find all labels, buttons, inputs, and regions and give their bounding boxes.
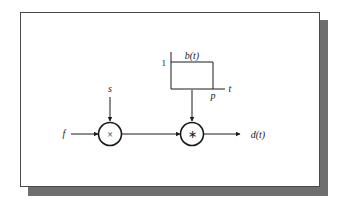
figure-canvas: 1 b(t) p t s f × ∗ bbox=[0, 0, 342, 208]
pulse-width-label: p bbox=[210, 90, 216, 101]
multiply-symbol: × bbox=[107, 129, 113, 140]
input-label: f bbox=[63, 128, 67, 139]
convolve-symbol: ∗ bbox=[188, 128, 197, 140]
signal-output: d(t) bbox=[204, 129, 266, 141]
pulse-signal-label: b(t) bbox=[185, 50, 200, 62]
output-label: d(t) bbox=[251, 129, 266, 141]
signal-input: f bbox=[63, 128, 98, 139]
pulse-amplitude-label: 1 bbox=[162, 58, 167, 68]
modulation-input: s bbox=[108, 83, 112, 121]
multiplier-node: × bbox=[99, 123, 122, 146]
pulse-plot: 1 b(t) p t bbox=[162, 50, 232, 101]
block-diagram: 1 b(t) p t s f × ∗ bbox=[0, 0, 342, 208]
modulation-label: s bbox=[108, 83, 112, 94]
pulse-time-axis-label: t bbox=[229, 83, 232, 94]
convolver-node: ∗ bbox=[181, 123, 204, 146]
